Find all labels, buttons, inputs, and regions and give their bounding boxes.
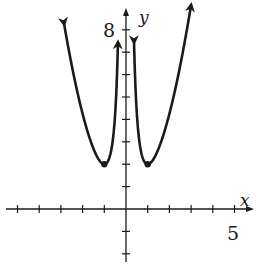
curves bbox=[64, 5, 191, 164]
y-axis-label: y bbox=[138, 7, 149, 27]
function-graph: x y 5 8 bbox=[0, 0, 265, 271]
axes bbox=[6, 10, 252, 262]
left-branch-curve bbox=[64, 24, 118, 164]
x-max-tick-label: 5 bbox=[227, 222, 239, 244]
y-max-tick-label: 8 bbox=[103, 19, 115, 41]
minimum-point bbox=[145, 161, 151, 167]
x-axis-label: x bbox=[240, 190, 250, 210]
right-branch-curve bbox=[134, 5, 191, 164]
minimum-point bbox=[101, 161, 107, 167]
